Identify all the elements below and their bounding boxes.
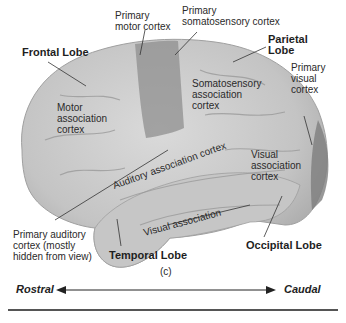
label-line: Primary auditory — [13, 229, 92, 240]
label-primary-motor-cortex: Primary motor cortex — [115, 10, 171, 32]
label-line: motor cortex — [115, 21, 171, 32]
label-parietal-lobe: Parietal Lobe — [268, 34, 308, 56]
label-primary-visual-cortex: Primary visual cortex — [291, 62, 325, 95]
label-line: Lobe — [268, 45, 308, 56]
label-line: Visual — [251, 149, 301, 160]
axis-label-caudal: Caudal — [284, 283, 321, 295]
label-line: Somatosensory — [192, 78, 261, 89]
label-primary-auditory-cortex: Primary auditory cortex (mostly hidden f… — [13, 229, 92, 262]
label-line: Primary — [182, 5, 280, 16]
label-line: Primary — [291, 62, 325, 73]
label-occipital-lobe: Occipital Lobe — [246, 240, 322, 251]
label-motor-association-cortex: Motor association cortex — [57, 102, 107, 135]
label-line: association — [192, 89, 261, 100]
label-visual-association-cortex: Visual association cortex — [251, 149, 301, 182]
label-line: cortex — [251, 171, 301, 182]
label-line: association — [57, 113, 107, 124]
label-line: cortex — [291, 84, 325, 95]
label-line: hidden from view) — [13, 251, 92, 262]
label-line: visual — [291, 73, 325, 84]
label-line: Primary — [115, 10, 171, 21]
label-line: cortex — [192, 100, 261, 111]
label-temporal-lobe: Temporal Lobe — [109, 250, 187, 261]
label-line: association — [251, 160, 301, 171]
label-line: cortex — [57, 124, 107, 135]
label-primary-somatosensory-cortex: Primary somatosensory cortex — [182, 5, 280, 27]
label-somatosensory-association-cortex: Somatosensory association cortex — [192, 78, 261, 111]
panel-label: (c) — [160, 266, 172, 277]
label-frontal-lobe: Frontal Lobe — [22, 47, 89, 58]
axis-label-rostral: Rostral — [16, 283, 54, 295]
label-line: cortex (mostly — [13, 240, 92, 251]
label-line: Motor — [57, 102, 107, 113]
label-line: somatosensory cortex — [182, 16, 280, 27]
